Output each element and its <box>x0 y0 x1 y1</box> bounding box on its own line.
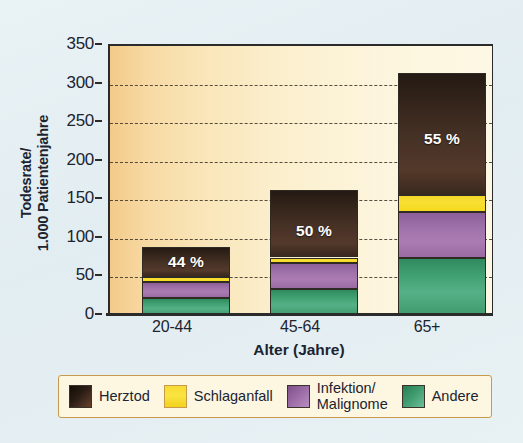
bar-20-44[interactable]: 44 % <box>142 247 230 316</box>
y-axis-title-line2: 1.000 Patientenjahre <box>35 114 52 250</box>
x-tick-label-65plus: 65+ <box>364 318 490 336</box>
bar-segment-infektion-65plus[interactable] <box>398 212 486 258</box>
y-tick-mark-250 <box>95 120 102 122</box>
legend-item-schlaganfall[interactable]: Schlaganfall <box>164 385 273 408</box>
bar-segment-herztod-20-44[interactable] <box>142 247 230 278</box>
legend-label-infektion-malignome: Infektion/ Malignome <box>317 381 388 412</box>
x-tick-label-20-44: 20-44 <box>108 318 236 336</box>
bar-segment-andere-45-64[interactable] <box>270 289 358 316</box>
y-axis-title-line1: Todesrate/ <box>18 114 35 250</box>
bar-segment-andere-65plus[interactable] <box>398 258 486 316</box>
legend-swatch-schlaganfall-icon <box>164 385 187 408</box>
bar-45-64[interactable]: 50 % <box>270 190 358 316</box>
legend-swatch-infektion-icon <box>287 385 310 408</box>
legend-item-herztod[interactable]: Herztod <box>69 385 150 408</box>
chart-legend: Herztod Schlaganfall Infektion/ Malignom… <box>58 375 492 418</box>
legend-label-herztod: Herztod <box>99 389 150 405</box>
legend-swatch-herztod-icon <box>69 385 92 408</box>
y-tick-mark-200 <box>95 159 102 161</box>
chart-figure: Todesrate/ 1.000 Patientenjahre 350 300 … <box>0 0 523 443</box>
y-tick-mark-350 <box>95 43 102 45</box>
y-tick-mark-150 <box>95 197 102 199</box>
legend-label-infektion-line1: Infektion/ <box>317 380 376 396</box>
x-tick-label-45-64: 45-64 <box>236 318 364 336</box>
y-axis-ticks: 350 300 250 200 150 100 50 0 <box>52 36 102 321</box>
x-axis-title: Alter (Jahre) <box>108 341 490 359</box>
legend-label-andere: Andere <box>432 389 479 405</box>
bar-segment-herztod-45-64[interactable] <box>270 190 358 257</box>
y-tick-label-200: 200 <box>67 150 94 170</box>
y-tick-mark-0 <box>95 313 102 315</box>
y-tick-mark-100 <box>95 236 102 238</box>
legend-item-infektion-malignome[interactable]: Infektion/ Malignome <box>287 381 388 412</box>
bar-segment-herztod-65plus[interactable] <box>398 73 486 195</box>
legend-item-andere[interactable]: Andere <box>402 385 479 408</box>
y-tick-label-250: 250 <box>67 111 94 131</box>
y-tick-label-350: 350 <box>67 34 94 54</box>
bar-segment-infektion-20-44[interactable] <box>142 282 230 298</box>
legend-label-schlaganfall: Schlaganfall <box>194 389 273 405</box>
bar-segment-infektion-45-64[interactable] <box>270 263 358 289</box>
y-tick-label-50: 50 <box>76 265 94 285</box>
y-tick-label-100: 100 <box>67 227 94 247</box>
y-tick-mark-300 <box>95 82 102 84</box>
y-tick-label-300: 300 <box>67 73 94 93</box>
x-axis-line <box>106 313 492 316</box>
y-tick-label-0: 0 <box>85 304 94 324</box>
bar-65plus[interactable]: 55 % <box>398 73 486 316</box>
y-tick-mark-50 <box>95 274 102 276</box>
legend-swatch-andere-icon <box>402 385 425 408</box>
y-tick-label-150: 150 <box>67 188 94 208</box>
legend-label-infektion-line2: Malignome <box>317 397 388 413</box>
bar-segment-schlaganfall-65plus[interactable] <box>398 195 486 212</box>
plot-area: 44 % 50 % 55 % <box>108 44 493 316</box>
